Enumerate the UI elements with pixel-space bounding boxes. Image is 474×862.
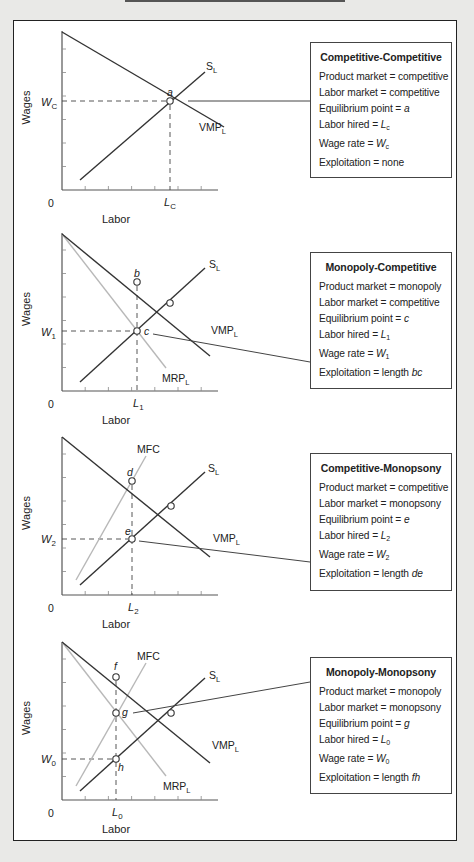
summary-box-line: Exploitation = length de — [319, 566, 451, 582]
mrpl-curve — [62, 234, 166, 368]
point-label-g: g — [122, 706, 128, 718]
diagram-panel-3: MFCVMPLSLdeW2L20LaborWages — [20, 437, 310, 630]
y-axis-title: Wages — [20, 90, 32, 124]
sl-curve — [80, 268, 205, 382]
point-label-h: h — [118, 761, 124, 773]
mfc-label: MFC — [137, 650, 160, 662]
summary-box-line: Labor market = monopsony — [319, 496, 451, 512]
sl-label: SL — [209, 258, 220, 273]
point-label-f: f — [114, 660, 118, 672]
summary-box-line: Wage rate = W0 — [319, 751, 451, 770]
summary-box-3: Competitive-MonopsonyProduct market = co… — [310, 453, 452, 591]
summary-box-line: Labor market = competitive — [319, 85, 451, 101]
y-axis-title: Wages — [20, 292, 32, 326]
summary-box-line: Labor hired = Lc — [319, 117, 451, 136]
intersection-point — [168, 710, 174, 716]
sl-label: SL — [208, 462, 219, 477]
summary-box-line: Equilibrium point = a — [319, 101, 451, 117]
labor-level-label: L0 — [112, 806, 123, 821]
callout-connector — [153, 334, 310, 362]
vmpl-curve — [62, 32, 224, 127]
wage-level-label: W2 — [41, 533, 56, 548]
labor-level-label: L2 — [128, 601, 139, 616]
point-label-a: a — [167, 86, 173, 98]
origin-label: 0 — [48, 197, 54, 209]
summary-box-title: Competitive-Competitive — [319, 51, 451, 63]
sl-curve — [80, 472, 205, 585]
summary-box-line: Labor market = monopsony — [319, 700, 451, 716]
vmpl-label: VMPL — [212, 739, 239, 754]
summary-box-2: Monopoly-CompetitiveProduct market = mon… — [310, 252, 452, 389]
mrpl-label: MRPL — [163, 780, 191, 795]
callout-connector — [133, 682, 310, 713]
point-label-d: d — [127, 466, 134, 478]
origin-label: 0 — [48, 807, 54, 819]
summary-box-line: Labor hired = L0 — [319, 732, 451, 751]
summary-box-line: Wage rate = W2 — [319, 547, 451, 566]
point-g — [113, 710, 119, 716]
vmpl-curve — [62, 234, 210, 356]
summary-box-line: Labor hired = L1 — [319, 327, 451, 346]
summary-box-line: Exploitation = length fh — [319, 770, 451, 786]
sl-label: SL — [206, 60, 217, 75]
x-axis-title: Labor — [102, 213, 130, 225]
summary-box-title: Competitive-Monopsony — [319, 462, 451, 474]
callout-connector — [139, 541, 310, 562]
mfc-label: MFC — [137, 443, 160, 455]
summary-box-line: Product market = competitive — [319, 480, 451, 496]
point-b — [134, 279, 140, 285]
point-d — [129, 478, 135, 484]
summary-box-line: Equilibrium point = g — [319, 716, 451, 732]
mrpl-label: MRPL — [162, 372, 190, 387]
summary-box-title: Monopoly-Competitive — [319, 261, 451, 273]
mfc-curve — [76, 456, 146, 580]
summary-box-4: Monopoly-MonopsonyProduct market = monop… — [310, 657, 452, 794]
point-label-b: b — [134, 267, 140, 279]
summary-box-line: Product market = monopoly — [319, 279, 451, 295]
summary-box-line: Exploitation = none — [319, 155, 451, 171]
x-axis-title: Labor — [102, 414, 130, 426]
x-axis-title: Labor — [102, 823, 130, 835]
x-axis-title: Labor — [102, 618, 130, 630]
vmpl-label: VMPL — [213, 532, 240, 547]
labor-level-label: LC — [164, 196, 176, 211]
intersection-point — [168, 503, 174, 509]
summary-box-line: Equilibrium point = c — [319, 311, 451, 327]
intersection-point — [167, 300, 173, 306]
summary-box-line: Labor market = competitive — [319, 295, 451, 311]
summary-box-line: Equilibrium point = e — [319, 512, 451, 528]
sl-curve — [80, 678, 205, 791]
summary-box-line: Wage rate = Wc — [319, 136, 451, 155]
labor-level-label: L1 — [133, 397, 144, 412]
wage-level-label: WC — [41, 96, 57, 111]
point-c — [134, 328, 140, 334]
y-axis-title: Wages — [20, 496, 32, 530]
diagram-panel-4: MRPLMFCVMPLSLfghW0L00LaborWages — [20, 642, 310, 835]
summary-box-line: Wage rate = W1 — [319, 346, 451, 365]
origin-label: 0 — [48, 398, 54, 410]
vmpl-label: VMPL — [211, 324, 238, 339]
origin-label: 0 — [48, 602, 54, 614]
point-label-c: c — [144, 325, 150, 337]
sl-label: SL — [209, 669, 220, 684]
summary-box-line: Product market = competitive — [319, 69, 451, 85]
diagram-panel-1: VMPLSLaWCLC0LaborWages — [20, 31, 310, 225]
wage-level-label: W0 — [41, 753, 56, 768]
summary-box-line: Exploitation = length bc — [319, 365, 451, 381]
y-axis-title: Wages — [20, 701, 32, 735]
diagram-panel-2: MRPLVMPLSLbcW1L10LaborWages — [20, 233, 310, 426]
point-f — [113, 674, 119, 680]
sl-curve — [80, 72, 205, 180]
wage-level-label: W1 — [41, 326, 56, 341]
summary-box-title: Monopoly-Monopsony — [319, 666, 451, 678]
point-a — [167, 98, 173, 104]
point-label-e: e — [125, 525, 131, 537]
summary-box-1: Competitive-CompetitiveProduct market = … — [310, 42, 452, 178]
vmpl-label: VMPL — [199, 121, 226, 136]
vmpl-curve — [62, 642, 210, 763]
summary-box-line: Product market = monopoly — [319, 684, 451, 700]
summary-box-line: Labor hired = L2 — [319, 528, 451, 547]
